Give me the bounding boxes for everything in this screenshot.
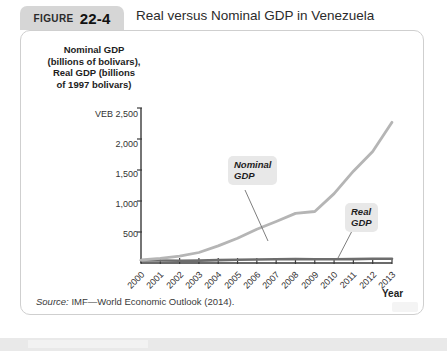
- source-prefix: Source:: [36, 296, 69, 307]
- y-tick-label-2000: 2,000: [68, 139, 138, 149]
- x-axis-title: Year: [382, 288, 403, 299]
- y-tick-label-1500: 1,500: [68, 169, 138, 179]
- figure-word: FIGURE: [33, 13, 73, 24]
- y-axis-caption-line-1: Nominal GDP: [34, 44, 154, 56]
- figure-title: Real versus Nominal GDP in Venezuela: [136, 8, 374, 23]
- corner-mark: [392, 302, 418, 312]
- figure-page: FIGURE 22-4 Real versus Nominal GDP in V…: [0, 0, 447, 351]
- y-axis-caption: Nominal GDP (billions of bolivars), Real…: [34, 44, 154, 90]
- real-gdp-label-line-2: GDP: [351, 217, 372, 228]
- source-note: Source: IMF—World Economic Outlook (2014…: [36, 296, 234, 307]
- real-gdp-label: Real GDP: [345, 203, 378, 232]
- y-axis-caption-line-3: Real GDP (billions: [34, 67, 154, 79]
- y-axis-caption-line-4: of 1997 bolivars): [34, 79, 154, 91]
- footer-bar: [0, 338, 447, 351]
- y-axis-caption-line-2: (billions of bolivars),: [34, 56, 154, 68]
- y-tick-label-500: 500: [68, 229, 138, 239]
- source-text: IMF—World Economic Outlook (2014).: [69, 296, 235, 307]
- nominal-gdp-label-line-2: GDP: [234, 170, 271, 181]
- nominal-gdp-label-line-1: Nominal: [234, 159, 271, 170]
- footer-bar-inner: [28, 340, 148, 348]
- real-gdp-label-line-1: Real: [351, 206, 372, 217]
- figure-number: 22-4: [80, 10, 111, 27]
- y-tick-label-2500: VEB 2,500: [68, 109, 138, 119]
- y-tick-label-1000: 1,000: [68, 199, 138, 209]
- figure-tab: FIGURE 22-4: [20, 6, 124, 30]
- nominal-gdp-label: Nominal GDP: [228, 156, 277, 185]
